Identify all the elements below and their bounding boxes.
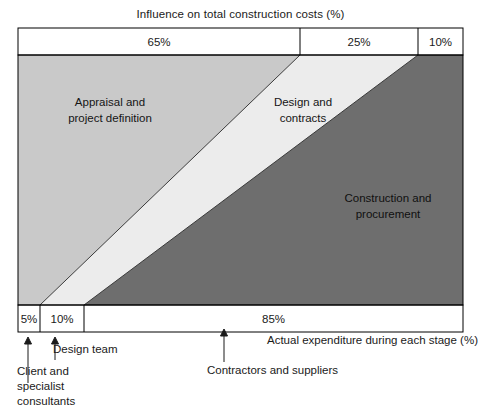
annotation-client-line3: consultants	[17, 395, 75, 407]
region-label-construction-line2: procurement	[356, 208, 421, 220]
annotation-contractors: Contractors and suppliers	[207, 364, 338, 376]
annotation-client-line1: Client and	[17, 365, 69, 377]
leader-arrowhead-client	[25, 337, 32, 344]
region-label-appraisal-line1: Appraisal and	[75, 96, 145, 108]
bottom-bar-cell-10: 10%	[50, 313, 73, 325]
region-label-appraisal-line2: project definition	[68, 112, 152, 124]
bottom-axis-caption: Actual expenditure during each stage (%)	[267, 334, 478, 346]
top-bar-cell-25: 25%	[347, 36, 370, 48]
annotation-texts: Client and specialist consultants Design…	[17, 343, 338, 407]
region-label-design-line2: contracts	[280, 112, 327, 124]
regions-group	[18, 55, 463, 305]
bottom-bar: 5% 10% 85%	[18, 305, 463, 332]
top-bar-cell-65: 65%	[147, 36, 170, 48]
annotation-client-line2: specialist	[17, 380, 65, 392]
top-bar: 65% 25% 10%	[18, 28, 463, 55]
region-label-design-line1: Design and	[274, 96, 332, 108]
bottom-bar-cell-5: 5%	[21, 313, 38, 325]
diagram-canvas: Influence on total construction costs (%…	[0, 0, 481, 416]
region-label-construction-line1: Construction and	[345, 192, 432, 204]
top-bar-cell-10: 10%	[429, 36, 452, 48]
construction-cost-influence-diagram: 65% 25% 10% 5% 10% 85% Appraisal and pro…	[0, 0, 481, 416]
annotation-design-team: Design team	[53, 343, 118, 355]
bottom-bar-cell-85: 85%	[262, 313, 285, 325]
